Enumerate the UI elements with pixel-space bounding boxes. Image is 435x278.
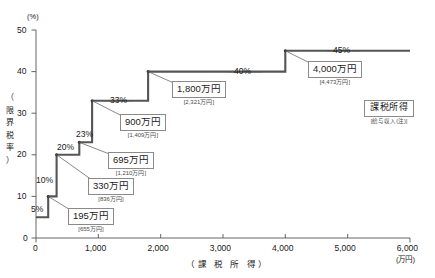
y-title-char-4: 率: [3, 142, 17, 155]
y-tick-50: 50: [17, 26, 26, 35]
y-tick-10: 10: [17, 192, 26, 201]
callout-195-sub: [655万円]: [68, 226, 114, 232]
y-axis-unit: (%): [27, 13, 39, 21]
callout-1800-sub: [2,321万円]: [172, 99, 226, 105]
callout-900: 900万円 [1,409万円]: [120, 112, 166, 138]
callout-900-value: 900万円: [120, 114, 166, 131]
y-title-char-3: 税: [3, 130, 17, 143]
callout-195-value: 195万円: [68, 208, 114, 225]
y-title-char-5: ）: [3, 155, 17, 168]
y-tick-30: 30: [17, 109, 26, 118]
y-title-char-1: 限: [3, 105, 17, 118]
callout-330: 330万円 [836万円]: [88, 176, 134, 202]
callout-195: 195万円 [655万円]: [68, 206, 114, 232]
marginal-tax-rate-chart: (%) 50 40 30 20 10 0 （ 限 界 税 率 ） 0 1,000…: [0, 0, 435, 278]
rate-label-23: 23%: [76, 130, 93, 139]
x-tick-3000: 3,000: [210, 244, 231, 253]
y-title-char-0: （: [3, 92, 17, 105]
callout-4000: 4,000万円 [4,473万円]: [308, 59, 362, 85]
callout-695-sub: [1,210万円]: [108, 170, 154, 176]
callout-330-value: 330万円: [88, 178, 134, 195]
callout-1800-value: 1,800万円: [172, 81, 226, 98]
y-tick-20: 20: [17, 150, 26, 159]
rate-label-20: 20%: [57, 143, 74, 152]
callout-4000-sub: [4,473万円]: [308, 79, 362, 85]
chart-plot-area: [0, 0, 435, 278]
callout-695: 695万円 [1,210万円]: [108, 150, 154, 176]
rate-label-45: 45%: [333, 46, 350, 55]
x-axis: [36, 234, 410, 243]
x-tick-4000: 4,000: [272, 244, 293, 253]
rate-label-10: 10%: [36, 176, 53, 185]
callout-1800: 1,800万円 [2,321万円]: [172, 79, 226, 105]
callout-330-sub: [836万円]: [88, 196, 134, 202]
legend-label: 課税所得: [364, 100, 414, 117]
callout-695-value: 695万円: [108, 152, 154, 169]
x-axis-title: （課 税 所 得）: [186, 257, 270, 269]
y-tick-40: 40: [17, 67, 26, 76]
callout-900-sub: [1,409万円]: [120, 132, 166, 138]
x-tick-2000: 2,000: [148, 244, 169, 253]
y-axis-title: （ 限 界 税 率 ）: [3, 92, 17, 167]
x-tick-5000: 5,000: [335, 244, 356, 253]
x-axis-unit: (万円): [396, 256, 415, 264]
rate-label-33: 33%: [110, 96, 127, 105]
x-tick-6000: 6,000: [397, 244, 418, 253]
y-tick-0: 0: [23, 234, 28, 243]
rate-label-40: 40%: [234, 67, 251, 76]
x-tick-1000: 1,000: [85, 244, 106, 253]
legend-sub: [給与収入(注)]: [364, 119, 414, 125]
callout-4000-value: 4,000万円: [308, 61, 362, 78]
y-title-char-2: 界: [3, 117, 17, 130]
rate-label-5: 5%: [31, 205, 43, 214]
chart-legend: 課税所得 [給与収入(注)]: [364, 97, 414, 124]
x-tick-0: 0: [33, 244, 38, 253]
